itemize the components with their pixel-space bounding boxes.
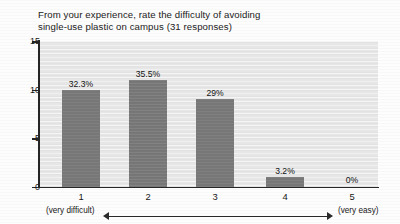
bar-category-2[interactable] — [129, 80, 167, 187]
scale-left-label: (very difficult) — [46, 206, 95, 215]
x-tick-label-4: 4 — [282, 191, 287, 202]
bar-value-label-4: 3.2% — [275, 166, 295, 176]
bar-value-label-3: 29% — [206, 88, 223, 98]
x-tick-label-1: 1 — [78, 191, 83, 202]
y-tick-label: 15 — [18, 36, 40, 46]
scale-double-arrow-icon — [103, 212, 333, 221]
arrow-right-icon — [327, 212, 333, 220]
bar-category-1[interactable] — [62, 90, 100, 187]
bar-value-label-2: 35.5% — [136, 69, 160, 79]
bar-value-label-5: 0% — [346, 175, 358, 185]
y-tick-label: 10 — [18, 85, 40, 95]
x-tick-label-3: 3 — [212, 191, 217, 202]
bar-value-label-1: 32.3% — [69, 79, 93, 89]
x-tick-label-2: 2 — [145, 191, 150, 202]
scale-annotation: (very difficult) (very easy) — [0, 206, 400, 220]
y-tick-label: 0 — [18, 182, 40, 192]
chart-title: From your experience, rate the difficult… — [38, 9, 358, 33]
chart-page: From your experience, rate the difficult… — [0, 0, 400, 224]
y-tick-label: 5 — [18, 133, 40, 143]
x-tick-label-5: 5 — [349, 191, 354, 202]
scale-right-label: (very easy) — [338, 206, 379, 215]
plot-area: 32.3% 35.5% 29% 3.2% 0% — [40, 41, 378, 187]
bar-category-3[interactable] — [196, 99, 234, 187]
y-axis-line — [38, 40, 40, 188]
arrow-line — [108, 216, 328, 217]
x-axis-line — [38, 187, 379, 189]
